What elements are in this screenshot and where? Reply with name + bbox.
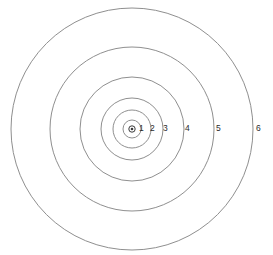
- ring-label-1: 1: [139, 123, 144, 133]
- ring-label-5: 5: [216, 123, 221, 133]
- ring-label-4: 4: [185, 123, 190, 133]
- center-marker-dot: [131, 128, 134, 131]
- diagram-background: [0, 0, 273, 255]
- diagram-canvas: 123456: [0, 0, 273, 255]
- ring-label-6: 6: [256, 123, 261, 133]
- ring-label-3: 3: [163, 123, 168, 133]
- center-point-marker: [129, 126, 135, 132]
- concentric-circles-diagram: 123456: [0, 0, 273, 255]
- ring-label-2: 2: [150, 123, 155, 133]
